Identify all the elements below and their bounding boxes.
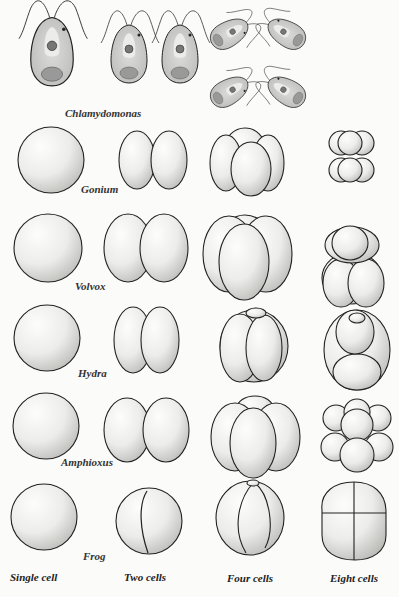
caption-eight-cells: Eight cells [330,572,378,584]
frog-row [11,480,386,560]
label-amphioxus: Amphioxus [61,456,113,468]
caption-single-cell: Single cell [10,571,57,583]
hydra-row [14,305,390,390]
label-frog: Frog [83,550,106,562]
label-volvox: Volvox [75,280,106,292]
caption-two-cells: Two cells [124,571,166,583]
cleavage-diagram [0,0,399,597]
caption-four-cells: Four cells [227,572,273,584]
label-hydra: Hydra [78,367,107,379]
label-chlamydomonas: Chlamydomonas [65,107,141,119]
chlamydomonas-group [19,0,315,120]
label-gonium: Gonium [81,183,118,195]
volvox-row [14,214,384,307]
gonium-row [18,127,374,196]
